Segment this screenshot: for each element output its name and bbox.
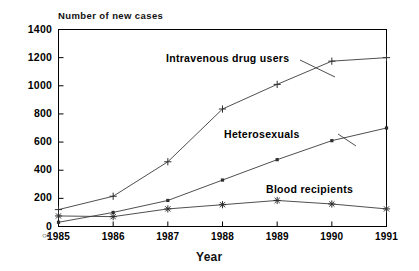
series-label-intravenous-drug-users: Intravenous drug users bbox=[166, 52, 289, 64]
series-lines bbox=[55, 54, 390, 224]
y-axis-ticks bbox=[59, 30, 64, 227]
plot-area bbox=[0, 0, 419, 271]
series-label-blood-recipients: Blood recipients bbox=[266, 183, 353, 195]
data-point-marker bbox=[166, 199, 169, 202]
chart-container: Number of new cases Year ○▪ 020040060080… bbox=[0, 0, 419, 271]
data-point-marker bbox=[330, 139, 333, 142]
data-point-marker bbox=[276, 158, 279, 161]
data-point-marker bbox=[57, 221, 60, 224]
data-point-marker bbox=[221, 178, 224, 181]
annotation-leader bbox=[300, 60, 335, 77]
series-label-heterosexuals: Heterosexuals bbox=[224, 128, 300, 140]
data-point-marker bbox=[385, 126, 388, 129]
series-markers bbox=[57, 126, 388, 223]
annotation-leader-lines bbox=[300, 60, 356, 146]
x-axis-ticks bbox=[59, 222, 387, 227]
